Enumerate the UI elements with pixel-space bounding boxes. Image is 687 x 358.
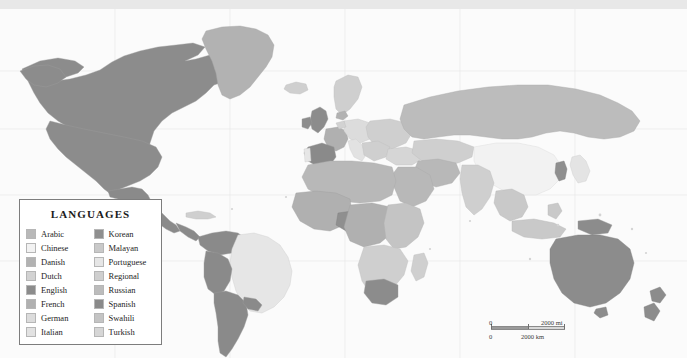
legend-item-english[interactable]: English [26, 283, 88, 297]
legend-item-swahili[interactable]: Swahili [94, 311, 156, 325]
world-languages-map-page: LANGUAGES Arabic Chinese Danish Dutch [0, 0, 687, 358]
legend-item-french[interactable]: French [26, 297, 88, 311]
legend-label-italian: Italian [41, 327, 63, 337]
legend-swatch-turkish [94, 327, 104, 337]
legend-item-malayan[interactable]: Malayan [94, 241, 156, 255]
legend-swatch-russian [94, 285, 104, 295]
scale-tick-end [564, 324, 565, 329]
legend-label-russian: Russian [109, 285, 136, 295]
legend-item-spanish[interactable]: Spanish [94, 297, 156, 311]
legend-swatch-italian [26, 327, 36, 337]
legend-item-regional[interactable]: Regional [94, 269, 156, 283]
legend-swatch-malayan [94, 243, 104, 253]
map-legend[interactable]: LANGUAGES Arabic Chinese Danish Dutch [19, 199, 162, 345]
legend-swatch-arabic [26, 229, 36, 239]
legend-label-turkish: Turkish [109, 327, 135, 337]
legend-label-swahili: Swahili [109, 313, 135, 323]
legend-label-spanish: Spanish [109, 299, 136, 309]
legend-item-arabic[interactable]: Arabic [26, 227, 88, 241]
legend-label-english: English [41, 285, 67, 295]
scale-label-zero-miles: 0 [489, 319, 492, 326]
region-portugal[interactable] [304, 148, 311, 162]
legend-label-arabic: Arabic [41, 229, 64, 239]
legend-label-chinese: Chinese [41, 243, 68, 253]
legend-label-korean: Korean [109, 229, 134, 239]
legend-item-danish[interactable]: Danish [26, 255, 88, 269]
scale-label-max-kilometers: 2000 km [521, 333, 544, 340]
legend-columns: Arabic Chinese Danish Dutch English [26, 227, 155, 339]
legend-column-left: Arabic Chinese Danish Dutch English [26, 227, 88, 339]
top-border-band [0, 0, 687, 9]
legend-item-korean[interactable]: Korean [94, 227, 156, 241]
legend-item-italian[interactable]: Italian [26, 325, 88, 339]
legend-item-dutch[interactable]: Dutch [26, 269, 88, 283]
scale-label-max-miles: 2000 mi [541, 319, 563, 326]
legend-label-german: German [41, 313, 68, 323]
legend-swatch-spanish [94, 299, 104, 309]
legend-label-regional: Regional [109, 271, 140, 281]
legend-swatch-portuguese [94, 257, 104, 267]
legend-swatch-chinese [26, 243, 36, 253]
legend-label-french: French [41, 299, 65, 309]
legend-item-german[interactable]: German [26, 311, 88, 325]
legend-swatch-swahili [94, 313, 104, 323]
scale-tick-mid [528, 324, 529, 329]
legend-item-turkish[interactable]: Turkish [94, 325, 156, 339]
legend-swatch-dutch [26, 271, 36, 281]
map-scale-bar: 0 2000 mi 0 2000 km [489, 318, 585, 344]
legend-title: LANGUAGES [26, 208, 155, 220]
legend-label-portuguese: Portuguese [109, 257, 147, 267]
legend-swatch-korean [94, 229, 104, 239]
legend-swatch-danish [26, 257, 36, 267]
legend-item-chinese[interactable]: Chinese [26, 241, 88, 255]
legend-label-dutch: Dutch [41, 271, 62, 281]
legend-swatch-english [26, 285, 36, 295]
legend-column-right: Korean Malayan Portuguese Regional Russi… [94, 227, 156, 339]
legend-label-danish: Danish [41, 257, 65, 267]
scale-label-zero-kilometers: 0 [489, 333, 492, 340]
legend-swatch-regional [94, 271, 104, 281]
legend-swatch-french [26, 299, 36, 309]
legend-label-malayan: Malayan [109, 243, 139, 253]
legend-item-portuguese[interactable]: Portuguese [94, 255, 156, 269]
legend-swatch-german [26, 313, 36, 323]
legend-item-russian[interactable]: Russian [94, 283, 156, 297]
